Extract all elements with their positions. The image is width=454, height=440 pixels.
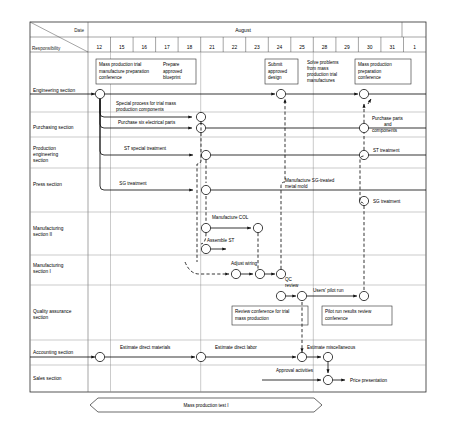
track-quality-assurance: QC review Users' pilot run: [276, 277, 368, 301]
row-label-engineering-section: Engineering section: [33, 88, 75, 93]
event-node-prodeng-1: [201, 150, 210, 159]
date-label-13: 31: [389, 45, 395, 50]
caption-sg-treatment-left: SG treatment: [119, 181, 147, 186]
date-label-0: 12: [96, 45, 102, 50]
caption-sg-treatment-right: SG treatment: [373, 199, 401, 204]
date-label-10: 28: [322, 45, 328, 50]
row-label-production-eng-l2: engineering: [33, 152, 58, 157]
date-label-3: 17: [164, 45, 170, 50]
link-dashed-into-mfg1: [185, 262, 229, 274]
event-node-mfg2-3: [201, 244, 210, 253]
bottom-banner-label: Mass production test I: [184, 403, 229, 408]
milestone-massprep-l3: conference: [358, 75, 381, 80]
date-label-4: 18: [187, 45, 193, 50]
row-label-production-eng-l3: section: [33, 158, 49, 163]
track-engineering-section: [30, 89, 426, 98]
event-node-qa-3: [359, 291, 368, 300]
milestone-line-1: Mass production trial: [99, 62, 141, 67]
caption-estimate-direct-materials: Estimate direct materials: [120, 345, 171, 350]
date-label-2: 16: [142, 45, 148, 50]
row-label-accounting-section: Accounting section: [33, 350, 74, 355]
event-node-acc-3: [297, 352, 306, 361]
milestone-submit-l2: approved: [268, 69, 288, 74]
caption-prepare-blueprint-l1: Prepare: [163, 62, 180, 67]
caption-special-process-l1: Special process for trial mass: [116, 101, 177, 106]
event-node-qa-1: [276, 291, 285, 300]
caption-estimate-miscellaneous: Estimate miscellaneous: [307, 345, 356, 350]
row-label-manufacturing-ii-l2: section II: [33, 232, 52, 237]
caption-st-special-treatment: ST special treatment: [124, 146, 167, 151]
date-label-5: 21: [209, 45, 215, 50]
caption-purchase-parts-l1: Purchase parts: [372, 116, 404, 121]
caption-prepare-blueprint-l2: approved: [163, 69, 183, 74]
caption-purchase-six-parts: Purchase six electrical parts: [118, 120, 176, 125]
caption-purchase-parts-l3: components: [372, 128, 398, 133]
event-node-mfg2-2: [253, 223, 262, 232]
caption-solve-problems-l3: production trial: [307, 72, 337, 77]
caption-approval-activities: Approval activities: [276, 368, 314, 373]
milestone-submit-l3: design: [268, 75, 282, 80]
gantt-diagram-root: Date Responsibility August 12 15 16 17 1…: [0, 0, 454, 440]
caption-adjust-wiring: Adjust wiring: [231, 261, 257, 266]
event-node-eng-1: [95, 89, 104, 98]
milestone-line-2: manufacture preparation: [99, 69, 149, 74]
row-label-quality-assurance-l1: Quality assurance: [33, 309, 72, 314]
event-node-prodeng-2: [359, 150, 368, 159]
milestone-submit-l1: Submit: [268, 62, 283, 67]
event-node-purchasing-2: [359, 123, 368, 132]
event-node-acc-1: [95, 352, 104, 361]
caption-st-treatment: ST treatment: [373, 148, 400, 153]
corner-date-label: Date: [74, 28, 84, 33]
caption-purchase-parts-l2: and: [384, 122, 392, 127]
month-label: August: [235, 27, 251, 33]
milestone-line-3: conference: [99, 75, 122, 80]
caption-estimate-direct-labor: Estimate direct labor: [215, 345, 257, 350]
row-label-manufacturing-ii-l1: Manufacturing: [33, 226, 64, 231]
caption-manufacture-col: Manufacture COL: [212, 215, 249, 220]
track-manufacturing-i: Adjust wiring: [185, 261, 286, 279]
row-label-purchasing-section: Purchasing section: [33, 125, 74, 130]
row-label-press-section: Press section: [33, 182, 62, 187]
caption-qc-review-l1: QC: [285, 277, 293, 282]
milestone-massprep-l2: preparation: [358, 69, 382, 74]
event-node-acc-4: [323, 352, 332, 361]
caption-special-process-l2: production components: [116, 107, 164, 112]
date-label-1: 15: [119, 45, 125, 50]
date-label-14: 1: [413, 45, 416, 50]
milestone-review-l2: mass production: [235, 316, 269, 321]
milestone-pilot-l2: conference: [325, 316, 348, 321]
caption-solve-problems-l2: from mass: [307, 66, 329, 71]
track-manufacturing-ii: Manufacture COL Assemble ST: [201, 215, 262, 254]
date-label-7: 23: [254, 45, 260, 50]
caption-assemble-st: Assemble ST: [207, 238, 235, 243]
event-node-mfg1-1: [231, 269, 240, 278]
milestone-pilot-l1: Pilot run results review: [325, 309, 372, 314]
event-node-press-1: [201, 185, 210, 194]
corner-responsibility-label: Responsibility: [32, 46, 61, 51]
event-node-eng-3: [359, 89, 368, 98]
caption-manufacture-sg-mold-l1: Manufacture SG-treated: [285, 178, 335, 183]
caption-users-pilot-run: Users' pilot run: [313, 288, 344, 293]
date-label-9: 25: [299, 45, 305, 50]
row-label-manufacturing-i-l2: section I: [33, 269, 51, 274]
date-label-11: 29: [344, 45, 350, 50]
event-node-sales-1: [323, 375, 332, 384]
track-accounting-section: Estimate direct materials Estimate direc…: [30, 345, 356, 362]
event-node-press-2: [359, 196, 368, 205]
row-label-manufacturing-i-l1: Manufacturing: [33, 263, 64, 268]
track-sales-section: Approval activities Price presentation: [262, 362, 387, 385]
date-label-6: 22: [232, 45, 238, 50]
caption-manufacture-sg-mold-l2: metal mold: [285, 184, 308, 189]
event-node-acc-2: [196, 352, 205, 361]
event-node-mfg2-1: [201, 223, 210, 232]
schedule-chart: Date Responsibility August 12 15 16 17 1…: [0, 0, 454, 440]
event-node-special-process: [196, 112, 205, 121]
caption-qc-review-l2: review: [285, 283, 299, 288]
caption-price-presentation: Price presentation: [350, 378, 387, 383]
milestone-review-l1: Review conference for trial: [235, 309, 289, 314]
date-label-8: 24: [277, 45, 283, 50]
caption-solve-problems-l1: Solve problems: [307, 60, 339, 65]
milestone-massprep-l1: Mass production: [358, 62, 392, 67]
event-node-mfg1-2: [255, 269, 264, 278]
date-label-12: 30: [367, 45, 373, 50]
